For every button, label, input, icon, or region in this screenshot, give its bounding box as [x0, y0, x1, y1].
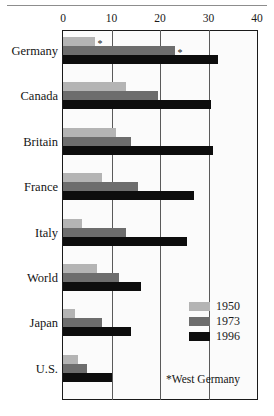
x-axis-tick-40: 40: [251, 12, 263, 24]
bar-germany-1973: [63, 46, 175, 55]
bar-britain-1973: [63, 137, 131, 146]
bar-italy-1996: [63, 237, 187, 246]
x-axis-tick-0: 0: [60, 12, 66, 24]
x-axis-tick-labels: 010203040: [0, 12, 274, 28]
legend-swatch-1950: [189, 302, 210, 311]
category-label-britain: Britain: [0, 127, 58, 157]
bar-france-1950: [63, 173, 102, 182]
bar-us-1996: [63, 373, 112, 382]
chart-footnote: *West Germany: [166, 372, 240, 386]
chart-legend: 195019731996: [189, 299, 251, 344]
bar-row: Canada: [0, 81, 274, 111]
legend-label-1996: 1996: [216, 329, 240, 344]
bar-canada-1973: [63, 91, 158, 100]
category-label-france: France: [0, 172, 58, 202]
category-label-us: U.S.: [0, 354, 58, 384]
bar-group: [63, 218, 257, 248]
bar-world-1950: [63, 264, 97, 273]
bar-japan-1950: [63, 309, 75, 318]
category-label-italy: Italy: [0, 218, 58, 248]
bar-row: France: [0, 172, 274, 202]
bar-japan-1996: [63, 327, 131, 336]
legend-swatch-1996: [189, 332, 210, 341]
bar-germany-1950: [63, 37, 95, 46]
legend-item-1996: 1996: [189, 329, 251, 344]
legend-item-1950: 1950: [189, 299, 251, 314]
category-label-japan: Japan: [0, 308, 58, 338]
legend-label-1973: 1973: [216, 314, 240, 329]
category-label-world: World: [0, 263, 58, 293]
bar-world-1973: [63, 273, 119, 282]
legend-item-1973: 1973: [189, 314, 251, 329]
legend-swatch-1973: [189, 317, 210, 326]
bar-france-1973: [63, 182, 138, 191]
bar-britain-1950: [63, 128, 116, 137]
bar-italy-1973: [63, 228, 126, 237]
x-axis-tick-20: 20: [154, 12, 166, 24]
bar-us-1950: [63, 355, 78, 364]
category-label-germany: Germany: [0, 36, 58, 66]
bar-canada-1996: [63, 100, 211, 109]
bar-group: [63, 81, 257, 111]
bar-row: Britain: [0, 127, 274, 157]
bar-canada-1950: [63, 82, 126, 91]
bar-us-1973: [63, 364, 87, 373]
bar-japan-1973: [63, 318, 102, 327]
bar-row: World: [0, 263, 274, 293]
x-axis-tick-30: 30: [203, 12, 215, 24]
legend-label-1950: 1950: [216, 299, 240, 314]
bar-world-1996: [63, 282, 141, 291]
bar-group: **: [63, 36, 257, 66]
bar-group: [63, 172, 257, 202]
x-axis-tick-10: 10: [106, 12, 118, 24]
bar-row: Italy: [0, 218, 274, 248]
bar-group: [63, 127, 257, 157]
bar-row: Germany**: [0, 36, 274, 66]
top-divider-rule: [7, 5, 267, 6]
category-label-canada: Canada: [0, 81, 58, 111]
bar-group: [63, 263, 257, 293]
bar-germany-1996: [63, 55, 218, 64]
bar-britain-1996: [63, 146, 213, 155]
bar-france-1996: [63, 191, 194, 200]
bar-italy-1950: [63, 219, 82, 228]
